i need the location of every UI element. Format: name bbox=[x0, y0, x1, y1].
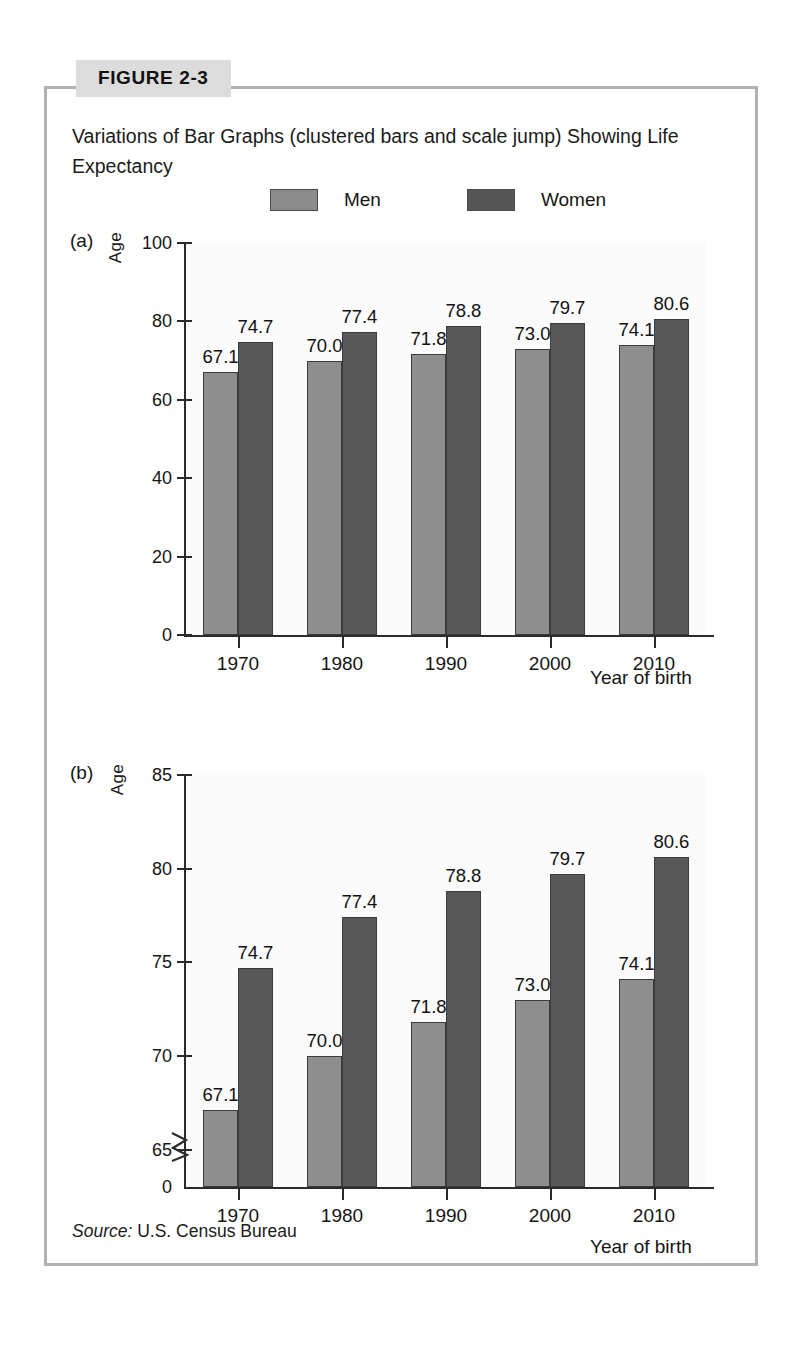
source-prefix: Source: bbox=[72, 1221, 132, 1241]
bar-men-1970 bbox=[203, 1110, 238, 1187]
bar-value-label: 73.0 bbox=[515, 974, 551, 996]
x-axis-tick-label: 1990 bbox=[425, 1205, 467, 1227]
bar-value-label: 70.0 bbox=[307, 1030, 343, 1052]
x-axis-tick bbox=[446, 1187, 448, 1200]
source-line: Source: U.S. Census Bureau bbox=[72, 1221, 297, 1242]
bar-women-2010 bbox=[654, 857, 689, 1187]
scale-jump-icon bbox=[170, 1129, 196, 1163]
y-axis-tick bbox=[177, 868, 192, 870]
panel-letter-b: (b) bbox=[70, 762, 93, 784]
x-axis-line bbox=[184, 1187, 714, 1189]
y-axis-tick-label: 70 bbox=[114, 1045, 172, 1066]
y-axis-tick-label: 75 bbox=[114, 952, 172, 973]
y-axis-tick-label: 65 bbox=[114, 1139, 172, 1160]
source-text: U.S. Census Bureau bbox=[137, 1221, 297, 1241]
y-axis-baseline-label: 0 bbox=[114, 1177, 172, 1198]
bar-value-label: 67.1 bbox=[203, 1084, 239, 1106]
x-axis-tick bbox=[238, 1187, 240, 1200]
y-axis-tick-label: 85 bbox=[114, 765, 172, 786]
bar-women-1970 bbox=[238, 968, 273, 1187]
bar-men-1990 bbox=[411, 1022, 446, 1187]
figure-page: FIGURE 2-3 Variations of Bar Graphs (clu… bbox=[0, 0, 806, 1360]
bar-men-2010 bbox=[619, 979, 654, 1187]
bar-men-1980 bbox=[307, 1056, 342, 1187]
y-axis-tick bbox=[177, 1055, 192, 1057]
y-axis-line bbox=[184, 775, 186, 1187]
x-axis-tick bbox=[342, 1187, 344, 1200]
bar-value-label: 78.8 bbox=[445, 865, 481, 887]
y-axis-tick bbox=[177, 774, 192, 776]
bar-women-1980 bbox=[342, 917, 377, 1187]
bar-value-label: 71.8 bbox=[411, 996, 447, 1018]
bar-value-label: 80.6 bbox=[653, 831, 689, 853]
bar-men-2000 bbox=[515, 1000, 550, 1187]
bar-value-label: 79.7 bbox=[549, 848, 585, 870]
x-axis-tick bbox=[654, 1187, 656, 1200]
x-axis-tick-label: 2000 bbox=[529, 1205, 571, 1227]
y-axis-tick-label: 80 bbox=[114, 858, 172, 879]
bar-women-1990 bbox=[446, 891, 481, 1187]
bar-value-label: 74.7 bbox=[237, 942, 273, 964]
bar-value-label: 77.4 bbox=[341, 891, 377, 913]
x-axis-title-b: Year of birth bbox=[590, 1236, 692, 1258]
x-axis-tick-label: 1980 bbox=[321, 1205, 363, 1227]
y-axis-tick bbox=[177, 961, 192, 963]
bar-women-2000 bbox=[550, 874, 585, 1187]
bar-value-label: 74.1 bbox=[619, 953, 655, 975]
chart-panel-b: (b) Age Year of birth 6570758085067.174.… bbox=[0, 0, 806, 1360]
x-axis-tick-label: 2010 bbox=[633, 1205, 675, 1227]
figure-number-badge: FIGURE 2-3 bbox=[76, 60, 231, 97]
x-axis-tick bbox=[550, 1187, 552, 1200]
